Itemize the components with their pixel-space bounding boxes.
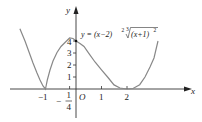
eq-prefix: y = (x−2)	[80, 30, 113, 39]
eq-radicand-square: 2	[154, 27, 157, 33]
y-tick-1: 1	[67, 72, 72, 82]
x-tick-frac-num: 1	[67, 90, 72, 100]
y-axis-arrow-icon	[74, 6, 79, 14]
function-graph: y x O 1 2 3 4 −1 1 2 − 1 4 y = (x−2) 2 3…	[0, 0, 202, 122]
eq-square: 2	[122, 27, 125, 33]
x-tick-frac-sign: −	[56, 96, 61, 106]
y-tick-4: 4	[67, 37, 72, 47]
x-axis-label: x	[190, 86, 195, 96]
x-tick-minus-1: −1	[38, 92, 48, 102]
equation-label: y = (x−2) 2 3 (x+1) 2	[80, 26, 158, 39]
x-tick-2: 2	[125, 92, 130, 102]
y-intercept-point	[75, 40, 78, 43]
origin-label: O	[79, 92, 86, 102]
x-tick-1: 1	[99, 92, 104, 102]
eq-radicand: (x+1)	[131, 30, 150, 39]
y-tick-2: 2	[67, 60, 72, 70]
eq-root-index: 3	[126, 26, 129, 32]
y-axis-label: y	[65, 5, 70, 15]
x-tick-frac-den: 4	[67, 102, 72, 112]
y-tick-3: 3	[67, 48, 72, 58]
